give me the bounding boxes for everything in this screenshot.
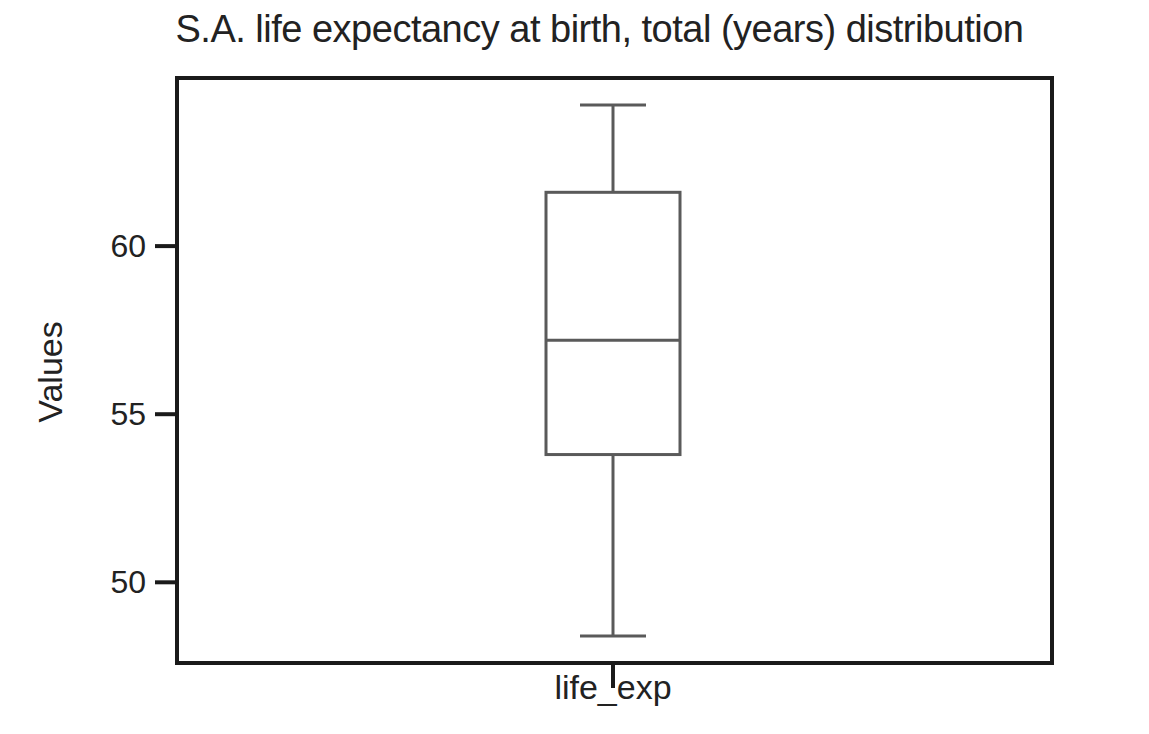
iqr-box: [546, 192, 680, 454]
box-plot-life-exp: [546, 105, 680, 636]
y-tick-label-55: 55: [86, 396, 146, 433]
y-tick-label-60: 60: [86, 228, 146, 265]
y-tick-label-50: 50: [86, 564, 146, 601]
x-tick-label-life-exp: life_exp: [554, 668, 671, 707]
plot-area: [0, 0, 1149, 734]
y-axis-ticks: [155, 246, 177, 582]
